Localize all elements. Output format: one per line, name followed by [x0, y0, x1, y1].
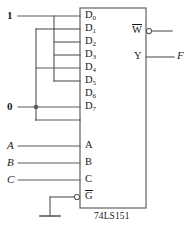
pin-label-b: B	[85, 157, 92, 168]
circuit-diagram: 1 0 A B C F D0 D1 D2 D3 D4 D5 D6 D7 A B …	[0, 0, 196, 231]
pin-label-d0: D0	[85, 10, 96, 22]
gbar-text: G	[85, 191, 93, 202]
chip-part-number: 74LS151	[94, 212, 130, 222]
wbar-text: W	[132, 25, 142, 36]
pin-label-d6: D6	[85, 88, 96, 100]
pin-label-d3: D3	[85, 49, 96, 61]
pin-label-d4: D4	[85, 62, 96, 74]
wbar-inversion-bubble	[146, 28, 151, 33]
wiring-layer	[0, 0, 196, 231]
gbar-inversion-bubble	[74, 194, 79, 199]
pin-label-d7: D7	[85, 101, 96, 113]
logic-zero-label: 0	[7, 101, 13, 112]
pin-label-wbar: W	[132, 25, 142, 36]
junction-dot	[34, 105, 39, 110]
pin-label-c: C	[85, 174, 92, 185]
pin-label-gbar: G	[85, 191, 93, 202]
logic-one-label: 1	[7, 10, 13, 21]
select-input-c-label: C	[7, 174, 14, 185]
select-input-a-label: A	[7, 140, 14, 151]
output-f-label: F	[177, 50, 184, 61]
pin-label-d5: D5	[85, 75, 96, 87]
pin-label-d2: D2	[85, 36, 96, 48]
pin-label-d1: D1	[85, 23, 96, 35]
pin-label-a: A	[85, 140, 93, 151]
select-input-b-label: B	[7, 157, 14, 168]
pin-label-y: Y	[134, 51, 142, 62]
